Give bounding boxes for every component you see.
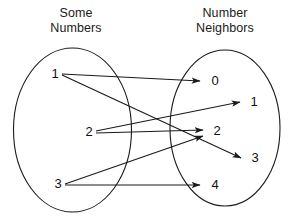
right-node-2: 2 bbox=[210, 124, 224, 137]
left-set-ellipse bbox=[14, 48, 132, 212]
left-node-1: 1 bbox=[48, 67, 62, 80]
right-node-0: 0 bbox=[208, 74, 222, 87]
left-node-3: 3 bbox=[51, 177, 65, 190]
right-node-1: 1 bbox=[247, 95, 261, 108]
left-node-2: 2 bbox=[82, 125, 96, 138]
left-set-title: Some Numbers bbox=[24, 6, 128, 36]
mapping-diagram: Some Numbers Number Neighbors 1 2 3 0 1 … bbox=[0, 0, 297, 223]
right-node-3: 3 bbox=[248, 151, 262, 164]
right-node-4: 4 bbox=[208, 178, 222, 191]
right-set-title: Number Neighbors bbox=[172, 6, 278, 36]
edge-1-to-0 bbox=[62, 74, 200, 81]
right-set-ellipse bbox=[170, 50, 280, 206]
